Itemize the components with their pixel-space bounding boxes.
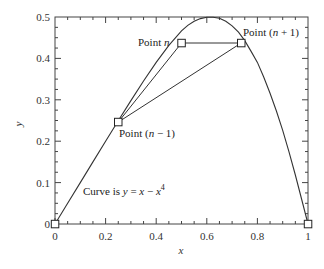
x-tick-label: 1 [305, 230, 311, 242]
label-point-n-minus-1: Point (n − 1) [119, 127, 175, 140]
x-tick-labels: 0 0.2 0.4 0.6 0.8 1 [52, 230, 311, 242]
label-curve-equation: Curve is y = x − x4 [83, 183, 165, 197]
x-axis-title: x [178, 244, 184, 256]
point-n-marker [178, 39, 186, 47]
y-tick-label: 0.2 [36, 135, 50, 147]
x1-marker [304, 220, 312, 228]
chord-nm1-to-n [118, 43, 181, 122]
label-point-n: Point n [138, 36, 170, 48]
y-tick-label: 0.4 [36, 52, 50, 64]
label-point-n-plus-1: Point (n + 1) [243, 26, 299, 39]
x-tick-label: 0.6 [200, 230, 214, 242]
chord-nm1-to-n1 [118, 43, 241, 122]
x-tick-label: 0 [52, 230, 58, 242]
x-tick-label: 0.4 [149, 230, 163, 242]
point-n1-marker [238, 39, 246, 47]
x-tick-label: 0.8 [251, 230, 265, 242]
x-tick-label: 0.2 [99, 230, 113, 242]
y-tick-labels: 0 0.1 0.2 0.3 0.4 0.5 [36, 11, 50, 230]
secant-lines [118, 43, 241, 122]
point-nm1-marker [115, 118, 123, 126]
y-tick-label: 0 [45, 218, 51, 230]
y-tick-label: 0.3 [36, 94, 50, 106]
point-markers [51, 39, 312, 228]
origin-marker [51, 220, 59, 228]
y-axis-title: y [12, 121, 24, 127]
y-tick-label: 0.5 [36, 11, 50, 23]
chart: 0 0.2 0.4 0.6 0.8 1 0 0.1 0.2 0.3 0.4 0.… [0, 0, 324, 269]
y-tick-label: 0.1 [36, 177, 50, 189]
